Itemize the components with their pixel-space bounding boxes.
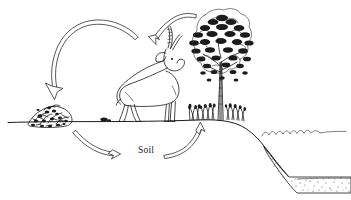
soil-label: Soil bbox=[138, 145, 154, 155]
arrow-animal-to-litter bbox=[45, 20, 138, 100]
grass-clump bbox=[188, 103, 246, 121]
diagram-canvas bbox=[0, 0, 351, 200]
arrow-litter-to-soil bbox=[73, 131, 121, 159]
broadleaf-tree bbox=[189, 9, 253, 120]
arrow-soil-to-plants bbox=[164, 122, 205, 158]
water-surface-waves bbox=[262, 130, 346, 136]
ecology-nutrient-cycle-diagram: Soil bbox=[0, 0, 351, 200]
antelope-herbivore bbox=[116, 26, 184, 122]
sediment-deposit-layer bbox=[264, 147, 351, 193]
dung-pellets bbox=[100, 118, 111, 122]
litter-detritus-mound bbox=[28, 105, 72, 128]
